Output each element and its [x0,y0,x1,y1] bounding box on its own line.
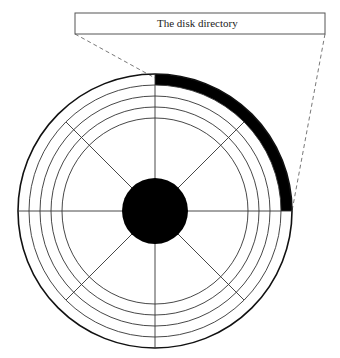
leader-line-left [75,34,155,78]
disk [18,74,292,348]
callout-label: The disk directory [157,17,238,29]
disk-directory-diagram: The disk directory [0,0,340,358]
leader-line-right [292,34,325,211]
disk-hub [122,178,188,244]
